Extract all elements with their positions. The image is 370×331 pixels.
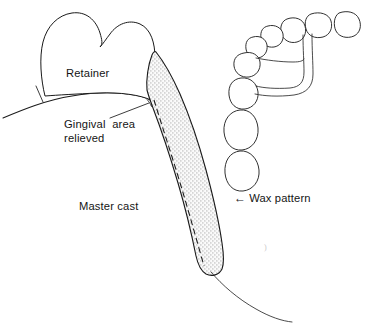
master-cast-tick <box>36 86 43 102</box>
label-master-cast: Master cast <box>79 200 138 214</box>
arrow-left-icon: ← <box>234 193 246 204</box>
arch-tooth-1 <box>334 12 360 38</box>
arch-tooth-7 <box>229 78 258 109</box>
scan-speck-artifact: ) <box>264 243 267 252</box>
dental-arch-diagram <box>224 12 360 191</box>
master-cast-ridge <box>3 93 151 118</box>
arch-tooth-2 <box>305 13 331 38</box>
wax-pattern-text: Wax pattern <box>249 192 311 206</box>
gingival-line-2: relieved <box>64 132 104 144</box>
arch-tooth-9 <box>225 151 259 191</box>
diagram-svg <box>0 0 370 331</box>
arch-tooth-6 <box>234 52 260 77</box>
arch-tooth-8 <box>224 110 258 150</box>
figure-canvas: Retainer Gingival arearelieved Master ca… <box>0 0 370 331</box>
label-retainer: Retainer <box>66 67 110 81</box>
label-gingival-area-relieved: Gingival arearelieved <box>64 118 135 145</box>
gingival-line-1: Gingival area <box>64 118 135 130</box>
sprue-tail-wire <box>211 272 292 322</box>
label-wax-pattern: ←Wax pattern <box>234 192 311 206</box>
arch-tooth-3 <box>281 18 306 43</box>
gingival-leader-line <box>110 103 149 118</box>
wax-pattern-band <box>147 52 224 276</box>
connector-bar-crossbrace <box>256 58 304 62</box>
retainer-crown <box>41 13 155 100</box>
